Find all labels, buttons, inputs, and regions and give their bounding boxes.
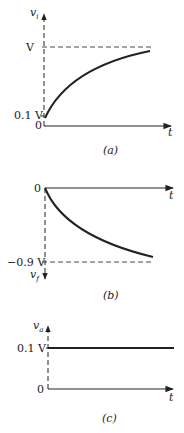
panel-b: 0 −0.9 V vf t (b) <box>7 182 174 302</box>
x-axis-label-a: t <box>168 126 173 139</box>
waveform-diagram: vi V 0.1 V 0 t (a) 0 −0.9 V vf t (b) va … <box>0 0 184 433</box>
x-axis-label-b: t <box>169 189 174 202</box>
caption-a: (a) <box>103 144 118 157</box>
tick-label-0.1v-c: 0.1 V <box>17 342 47 355</box>
tick-label-0-c: 0 <box>37 383 44 396</box>
x-axis-label-c: t <box>169 391 174 404</box>
falling-curve <box>45 188 153 257</box>
caption-b: (b) <box>103 289 119 302</box>
tick-label-0-a: 0 <box>35 119 42 132</box>
rising-curve <box>45 51 150 118</box>
tick-label-neg-0.9v: −0.9 V <box>7 256 46 269</box>
tick-label-0-b: 0 <box>34 182 41 195</box>
y-axis-label-a: vi <box>30 6 38 21</box>
y-axis-label-b: vf <box>30 268 40 283</box>
panel-c: va 0.1 V 0 t (c) <box>17 319 174 425</box>
panel-a: vi V 0.1 V 0 t (a) <box>14 6 173 157</box>
caption-c: (c) <box>102 412 117 425</box>
tick-label-v: V <box>25 41 35 54</box>
y-axis-label-c: va <box>33 319 43 334</box>
